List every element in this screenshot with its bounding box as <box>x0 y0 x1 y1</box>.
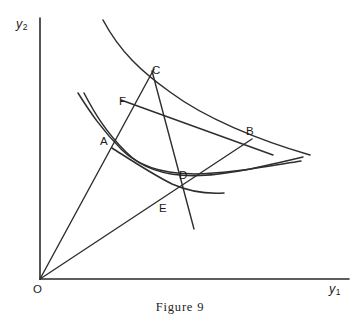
point-label-F: F <box>119 96 126 108</box>
point-label-C: C <box>152 65 161 77</box>
curve-middle-inner-through-A <box>84 93 303 176</box>
chords-group <box>121 71 273 229</box>
y1-axis-label: y1 <box>329 283 340 296</box>
y2-axis-label: y2 <box>16 18 27 31</box>
origin-label: O <box>33 284 42 296</box>
curve-upper-through-C-B <box>103 20 310 155</box>
ray-from-origin-through-E-to-B <box>40 139 252 279</box>
figure-9-diagram: y2 y1 O A B C D E F Figure 9 <box>0 0 360 333</box>
axes-group <box>40 18 349 279</box>
ray-from-origin-through-A-to-C <box>40 69 154 279</box>
point-label-A: A <box>100 136 108 148</box>
figure-caption: Figure 9 <box>0 300 360 315</box>
point-label-D: D <box>179 170 188 182</box>
curves-group <box>78 20 310 193</box>
point-label-B: B <box>246 126 254 138</box>
diagram-canvas <box>0 0 360 333</box>
point-label-E: E <box>159 203 167 215</box>
